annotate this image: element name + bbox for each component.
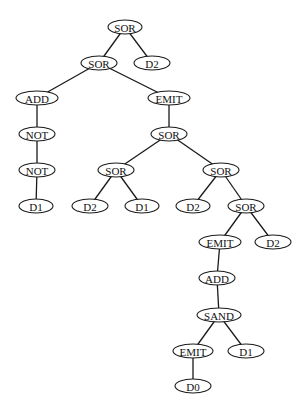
node-label: SOR bbox=[235, 201, 257, 213]
tree-node-sor: SOR bbox=[98, 163, 134, 177]
node-label: NOT bbox=[26, 129, 49, 141]
tree-node-sor: SOR bbox=[151, 127, 187, 141]
tree-node-sor: SOR bbox=[81, 56, 117, 70]
tree-node-sor: SOR bbox=[203, 163, 239, 177]
tree-node-emit: EMIT bbox=[173, 344, 213, 358]
node-label: SOR bbox=[210, 165, 232, 177]
node-label: D2 bbox=[145, 58, 158, 70]
tree-node-d1: D1 bbox=[19, 199, 53, 213]
node-label: D1 bbox=[239, 346, 252, 358]
node-label: NOT bbox=[26, 165, 49, 177]
tree-node-d2: D2 bbox=[255, 235, 291, 249]
node-label: D2 bbox=[83, 201, 96, 213]
node-label: D0 bbox=[186, 381, 200, 393]
node-label: ADD bbox=[25, 93, 49, 105]
node-label: SOR bbox=[88, 58, 110, 70]
tree-node-d2: D2 bbox=[72, 199, 108, 213]
tree-node-not: NOT bbox=[19, 127, 55, 141]
tree-node-add: ADD bbox=[199, 271, 235, 285]
tree-node-sand: SAND bbox=[197, 308, 241, 322]
tree-node-d0: D0 bbox=[175, 379, 211, 393]
tree-nodes: SORSORD2ADDEMITNOTSORNOTSORSORD1D2D1D2SO… bbox=[16, 20, 291, 393]
node-label: D1 bbox=[135, 201, 148, 213]
tree-node-d2: D2 bbox=[176, 199, 210, 213]
node-label: D2 bbox=[266, 237, 279, 249]
tree-node-not: NOT bbox=[19, 163, 55, 177]
node-label: SOR bbox=[114, 22, 136, 34]
node-label: EMIT bbox=[180, 346, 207, 358]
node-label: SOR bbox=[158, 129, 180, 141]
tree-node-d1: D1 bbox=[125, 199, 159, 213]
tree-node-add: ADD bbox=[16, 91, 58, 105]
node-label: SOR bbox=[105, 165, 127, 177]
node-label: ADD bbox=[205, 273, 229, 285]
tree-node-emit: EMIT bbox=[148, 91, 190, 105]
node-label: EMIT bbox=[156, 93, 183, 105]
node-label: D2 bbox=[186, 201, 199, 213]
tree-node-sor: SOR bbox=[228, 199, 264, 213]
tree-node-emit: EMIT bbox=[199, 235, 241, 249]
node-label: EMIT bbox=[207, 237, 234, 249]
node-label: SAND bbox=[204, 310, 234, 322]
tree-diagram: SORSORD2ADDEMITNOTSORNOTSORSORD1D2D1D2SO… bbox=[0, 0, 306, 411]
tree-node-d2: D2 bbox=[134, 56, 170, 70]
node-label: D1 bbox=[29, 201, 42, 213]
tree-node-sor: SOR bbox=[108, 20, 142, 34]
tree-node-d1: D1 bbox=[228, 344, 264, 358]
